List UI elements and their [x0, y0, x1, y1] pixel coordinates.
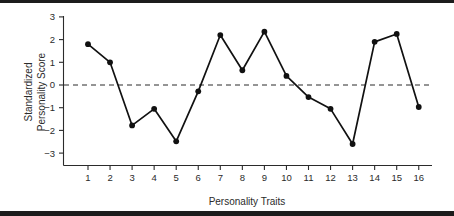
x-axis-tick-label: 6	[196, 172, 201, 183]
data-point	[262, 29, 268, 35]
data-point	[284, 73, 290, 79]
x-axis-tick-label: 5	[174, 172, 179, 183]
data-point	[239, 67, 245, 73]
figure-container: 3210−1−2−3 12345678910111213141516 Perso…	[0, 0, 454, 216]
x-axis-tick-label: 9	[262, 172, 267, 183]
y-axis-tick-label: 1	[50, 57, 55, 68]
data-point	[195, 88, 201, 94]
x-axis-tick-label: 10	[281, 172, 292, 183]
data-series-line	[88, 32, 419, 144]
data-point	[129, 123, 135, 129]
y-axis-tick-label: 2	[50, 34, 55, 45]
data-point	[217, 32, 223, 38]
data-point	[328, 106, 334, 112]
x-axis-tick-label: 16	[413, 172, 424, 183]
x-axis-tick-label: 14	[369, 172, 380, 183]
y-axis-tick-label: −3	[44, 148, 55, 159]
y-axis: 3210−1−2−3	[44, 11, 63, 165]
x-axis-title: Personality Traits	[209, 196, 286, 207]
y-axis-tick-label: 3	[50, 11, 55, 22]
y-axis-ticks	[59, 17, 64, 153]
data-series-points	[85, 29, 422, 147]
x-axis-tick-label: 7	[218, 172, 223, 183]
data-point	[394, 31, 400, 37]
data-point	[350, 141, 356, 147]
data-point	[107, 59, 113, 65]
data-point	[372, 39, 378, 45]
x-axis-tick-label: 11	[304, 172, 314, 183]
x-axis-tick-label: 12	[325, 172, 336, 183]
x-axis-tick-label: 13	[347, 172, 358, 183]
data-point	[173, 138, 179, 144]
x-axis-tick-labels: 12345678910111213141516	[85, 172, 424, 183]
x-axis-tick-label: 8	[240, 172, 245, 183]
y-axis-title-line2: Personality Score	[36, 52, 47, 131]
data-point	[416, 104, 422, 110]
x-axis-ticks	[88, 166, 419, 171]
y-axis-title-line1: Standardized	[23, 63, 34, 122]
x-axis-tick-label: 3	[129, 172, 134, 183]
y-axis-title: Standardized Personality Score	[23, 52, 47, 131]
x-axis-tick-label: 4	[152, 172, 157, 183]
x-axis-tick-label: 15	[391, 172, 402, 183]
y-axis-tick-label: 0	[50, 79, 55, 90]
data-point	[85, 41, 91, 47]
x-axis-tick-label: 1	[85, 172, 90, 183]
line-chart: 3210−1−2−3 12345678910111213141516 Perso…	[0, 0, 454, 216]
x-axis-tick-label: 2	[107, 172, 112, 183]
data-point	[306, 94, 312, 100]
data-point	[151, 106, 157, 112]
x-axis: 12345678910111213141516	[64, 166, 433, 184]
